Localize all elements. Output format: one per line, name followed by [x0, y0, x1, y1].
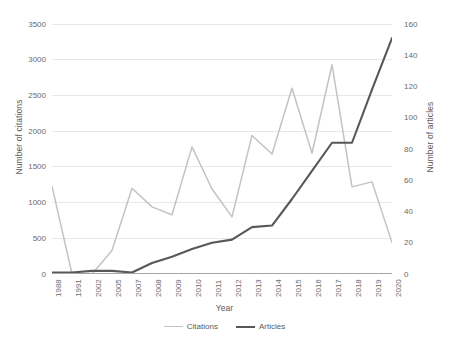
y-axis-right-tick-label: 60 — [404, 176, 432, 185]
y-axis-right-tick-label: 0 — [404, 270, 432, 279]
y-axis-left-tick-label: 1000 — [18, 198, 46, 207]
legend-entry-citations: Citations — [164, 322, 218, 331]
legend-label-citations: Citations — [187, 322, 218, 331]
x-axis-tick-label: 1988 — [55, 279, 63, 297]
y-axis-left-tick-label: 3500 — [18, 20, 46, 29]
x-axis-tick-label: 2016 — [315, 279, 323, 297]
x-axis-tick-label: 2002 — [95, 279, 103, 297]
x-axis-tick-label: 2018 — [355, 279, 363, 297]
gridlines — [52, 24, 392, 238]
x-axis-tick-label: 2012 — [235, 279, 243, 297]
x-axis-tick-label: 2020 — [395, 279, 403, 297]
legend-label-articles: Articles — [259, 322, 285, 331]
legend-swatch-articles-icon — [236, 326, 255, 328]
y-axis-right-tick-label: 20 — [404, 238, 432, 247]
x-axis-tick-label: 2017 — [335, 279, 343, 297]
x-axis-tick-label: 2015 — [295, 279, 303, 297]
y-axis-left-tick-label: 1500 — [18, 162, 46, 171]
y-axis-left-tick-label: 0 — [18, 270, 46, 279]
y-axis-right-tick-label: 140 — [404, 51, 432, 60]
y-axis-right-tick-label: 40 — [404, 207, 432, 216]
x-axis-tick-label: 2011 — [215, 280, 223, 297]
y-axis-right-tick-label: 100 — [404, 113, 432, 122]
y-axis-left-tick-label: 2000 — [18, 127, 46, 136]
series-line-articles — [52, 38, 392, 272]
x-axis-tick-label: 2009 — [175, 279, 183, 297]
y-axis-right-tick-label: 120 — [404, 82, 432, 91]
x-axis-tick-label: 2007 — [135, 279, 143, 297]
x-axis-tick-label: 2010 — [195, 279, 203, 297]
x-axis-tick-label: 1991 — [75, 279, 83, 297]
series-line-citations — [52, 65, 392, 274]
x-axis-title: Year — [0, 303, 449, 313]
legend-entry-articles: Articles — [236, 322, 285, 331]
chart-container: Number of citations Number of articles Y… — [0, 0, 449, 344]
x-axis-tick-label: 2005 — [115, 279, 123, 297]
y-axis-left-tick-label: 2500 — [18, 91, 46, 100]
plot-area — [52, 24, 392, 274]
y-axis-left-tick-label: 3000 — [18, 55, 46, 64]
x-axis-tick-label: 2013 — [255, 279, 263, 297]
x-axis-tick-label: 2019 — [375, 279, 383, 297]
legend-swatch-citations-icon — [164, 326, 183, 327]
x-axis-tick-label: 2014 — [275, 279, 283, 297]
y-axis-right-tick-label: 80 — [404, 145, 432, 154]
y-axis-left-tick-label: 500 — [18, 234, 46, 243]
x-axis-tick-label: 2008 — [155, 279, 163, 297]
chart-legend: Citations Articles — [0, 322, 449, 331]
plot-svg — [52, 24, 392, 274]
y-axis-right-tick-label: 160 — [404, 20, 432, 29]
